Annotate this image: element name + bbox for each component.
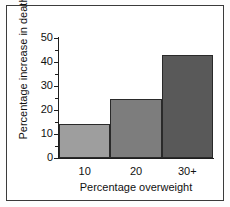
x-tick-label: 10 xyxy=(79,165,91,177)
y-tick-label-wrap: 0 xyxy=(17,158,53,159)
y-tick-minor xyxy=(55,122,58,123)
x-axis-line xyxy=(58,158,214,159)
x-tick-label: 30+ xyxy=(178,165,197,177)
bar-series xyxy=(59,38,213,158)
y-tick-minor xyxy=(55,74,58,75)
plot-area xyxy=(59,38,213,158)
y-tick-major xyxy=(54,158,59,159)
x-axis-title: Percentage overweight xyxy=(58,181,214,193)
bar-20 xyxy=(110,99,161,158)
y-tick-major xyxy=(54,134,59,135)
y-tick-major xyxy=(54,86,59,87)
y-axis-title: Percentage increase in death xyxy=(17,0,29,150)
chart-figure: 01020304050 102030+ Percentage overweigh… xyxy=(0,0,230,207)
x-tick-label: 20 xyxy=(130,165,142,177)
bar-30plus xyxy=(162,55,213,158)
y-tick-major xyxy=(54,38,59,39)
y-tick-major xyxy=(54,62,59,63)
y-tick-label: 0 xyxy=(23,152,53,163)
y-tick-minor xyxy=(55,146,58,147)
y-tick-minor xyxy=(55,98,58,99)
y-tick-minor xyxy=(55,50,58,51)
y-tick-major xyxy=(54,110,59,111)
bar-10 xyxy=(59,124,110,158)
figure-border: 01020304050 102030+ Percentage overweigh… xyxy=(6,5,224,201)
